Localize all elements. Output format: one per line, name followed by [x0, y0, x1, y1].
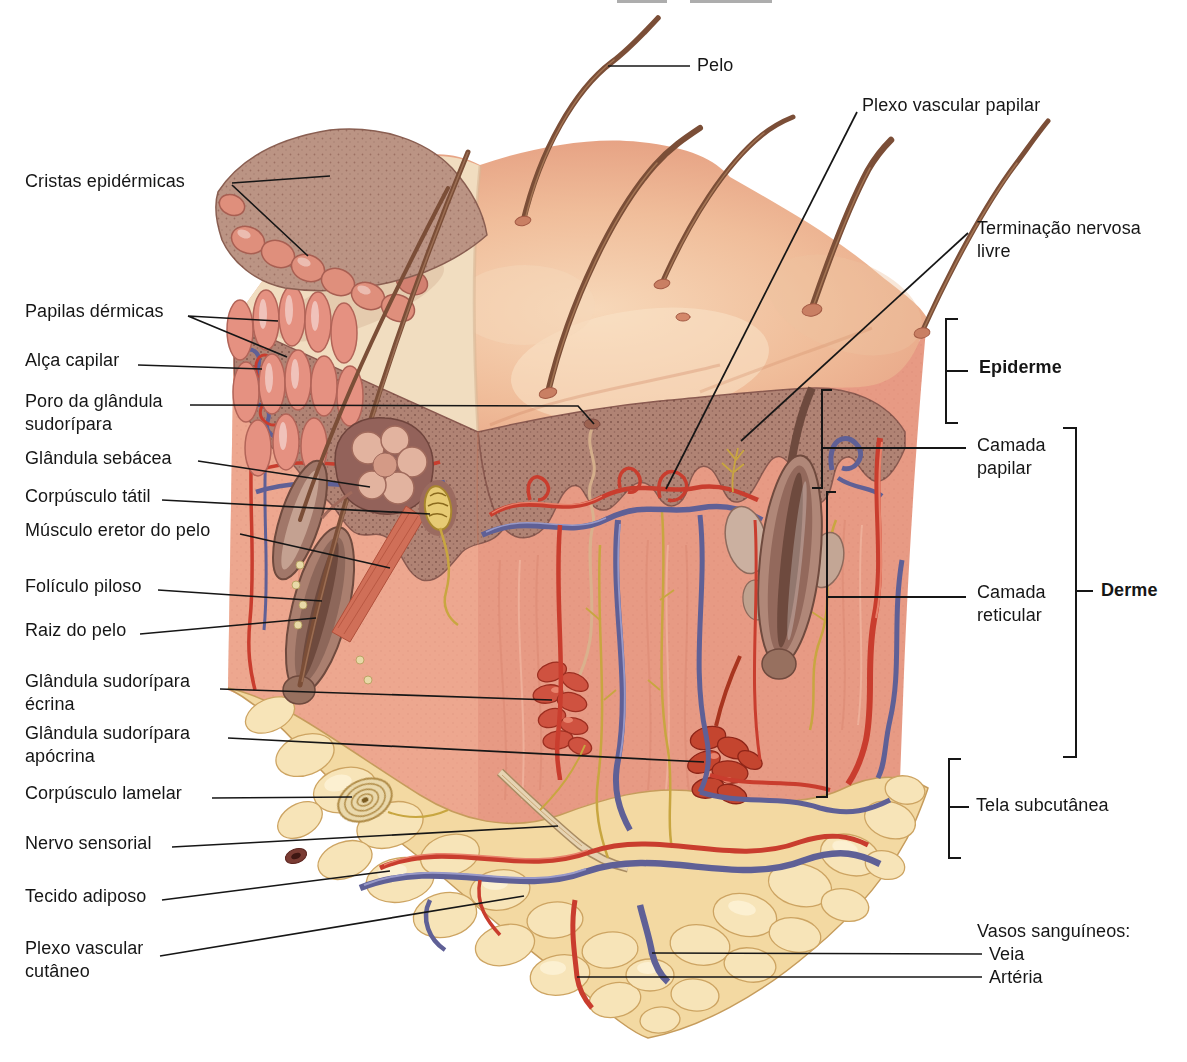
label-pelo: Pelo — [697, 54, 733, 77]
label-vasos-sanguineos: Vasos sanguíneos: — [977, 920, 1130, 943]
label-tecido-adiposo: Tecido adiposo — [25, 885, 147, 908]
label-alca-capilar: Alça capilar — [25, 349, 119, 372]
label-corpusculo-tatil: Corpúsculo tátil — [25, 485, 151, 508]
label-veia: Veia — [989, 943, 1024, 966]
label-corpusculo-lamelar: Corpúsculo lamelar — [25, 782, 182, 805]
label-arteria: Artéria — [989, 966, 1043, 989]
label-camada-reticular: Camada reticular — [977, 581, 1046, 627]
bracket-derme — [1063, 428, 1093, 757]
label-terminacao-nervosa-livre: Terminação nervosa livre — [977, 217, 1141, 263]
label-cristas-epidermicas: Cristas epidérmicas — [25, 170, 185, 193]
label-tela-subcutanea: Tela subcutânea — [976, 794, 1109, 817]
bracket-tela-subcutanea — [949, 759, 969, 858]
label-glandula-sudoripara-apocrina: Glândula sudorípara apócrina — [25, 722, 190, 768]
hair-bulb — [762, 649, 796, 679]
label-poro-glandula-sudoripara: Poro da glândula sudorípara — [25, 390, 163, 436]
label-plexo-vascular-cutaneo: Plexo vascular cutâneo — [25, 937, 143, 983]
label-foliculo-piloso: Folículo piloso — [25, 575, 142, 598]
surface-sweat-pore — [676, 313, 690, 321]
leader-tecido-adiposo — [162, 871, 390, 900]
leader-veia — [652, 953, 982, 954]
label-raiz-do-pelo: Raiz do pelo — [25, 619, 126, 642]
block-corner-edge — [477, 432, 478, 545]
cropped-caption-artifact — [617, 0, 772, 3]
label-nervo-sensorial: Nervo sensorial — [25, 832, 152, 855]
leader-corpusculo-lamelar — [212, 797, 352, 798]
label-musculo-eretor-do-pelo: Músculo eretor do pelo — [25, 519, 210, 542]
label-plexo-vascular-papilar: Plexo vascular papilar — [862, 94, 1040, 117]
label-camada-papilar: Camada papilar — [977, 434, 1046, 480]
bracket-epiderme — [946, 319, 968, 423]
label-epiderme: Epiderme — [979, 356, 1062, 379]
label-derme: Derme — [1101, 579, 1158, 602]
skin-anatomy-figure: Cristas epidérmicas Papilas dérmicas Alç… — [0, 0, 1187, 1062]
label-papilas-dermicas: Papilas dérmicas — [25, 300, 164, 323]
label-glandula-sudoripara-ecrina: Glândula sudorípara écrina — [25, 670, 190, 716]
label-glandula-sebacea: Glândula sebácea — [25, 447, 172, 470]
